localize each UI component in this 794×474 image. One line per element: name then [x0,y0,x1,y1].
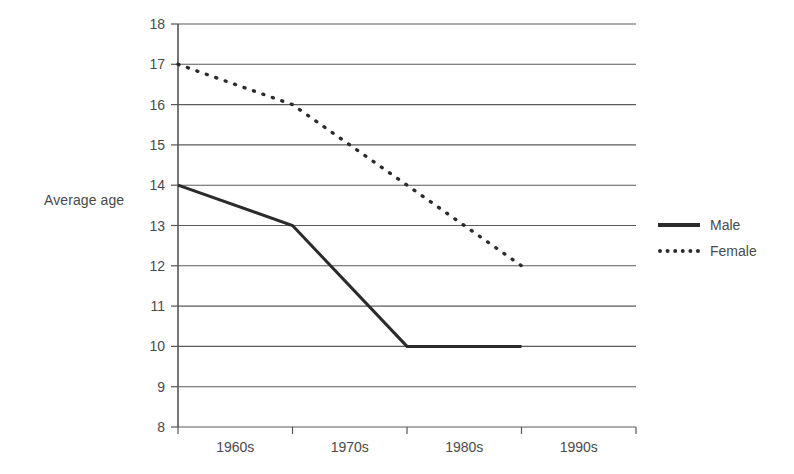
legend-label-female: Female [710,240,757,262]
y-tick-label: 17 [131,57,165,71]
y-axis-ticks [171,24,178,427]
y-tick-label: 9 [131,380,165,394]
x-tick-label: 1990s [539,440,619,454]
legend-line-sample-solid [658,223,700,227]
legend-label-male: Male [710,214,740,236]
x-tick-label: 1960s [195,440,275,454]
y-tick-label: 11 [131,299,165,313]
y-tick-label: 15 [131,138,165,152]
y-tick-label: 10 [131,339,165,353]
y-tick-label: 14 [131,178,165,192]
y-tick-label: 16 [131,98,165,112]
x-tick-label: 1970s [310,440,390,454]
gridlines [178,24,636,427]
y-tick-label: 8 [131,420,165,434]
data-series-group [178,64,522,346]
series-line-female [178,64,522,265]
y-tick-label: 12 [131,259,165,273]
legend-line-sample-dashed [658,249,700,253]
y-tick-label: 18 [131,17,165,31]
line-chart: Average age 18171615141312111098 1960s19… [0,0,794,474]
x-tick-label: 1980s [424,440,504,454]
y-tick-label: 13 [131,219,165,233]
x-axis-ticks [178,427,636,434]
plot-area [0,0,794,474]
